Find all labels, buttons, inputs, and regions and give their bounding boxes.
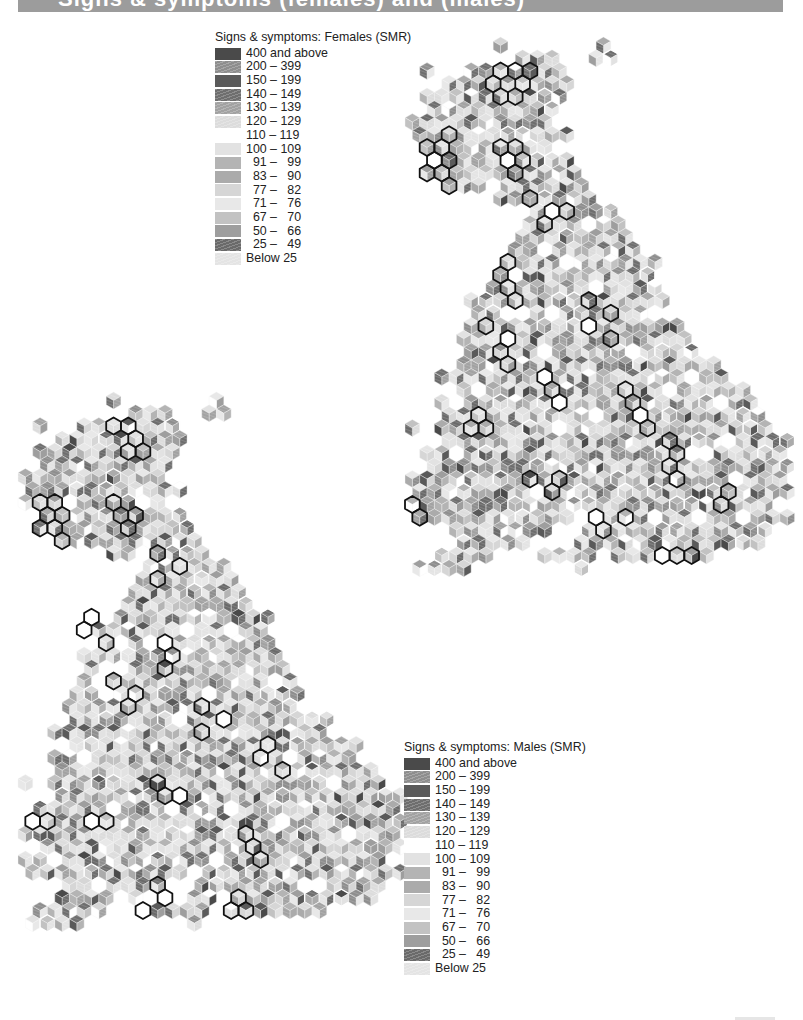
legend-swatch	[215, 239, 241, 251]
legend-label: 71 – 76	[246, 197, 301, 211]
legend-swatch	[215, 225, 241, 237]
legend-swatch	[404, 840, 430, 852]
legend-label: Below 25	[246, 252, 297, 266]
legend-label: 400 and above	[246, 47, 328, 61]
legend-swatch	[404, 867, 430, 879]
legend-swatch	[404, 963, 430, 975]
legend-item: 130 – 139	[215, 101, 411, 115]
legend-label: 120 – 129	[435, 825, 490, 839]
hex-cell	[780, 509, 795, 526]
legend-swatch	[215, 198, 241, 210]
legend-item: 150 – 199	[404, 784, 586, 798]
legend-swatch	[404, 881, 430, 893]
hex-cell	[18, 775, 33, 792]
legend-label: 50 – 66	[435, 935, 490, 949]
hex-cell	[33, 418, 48, 435]
legend-swatch	[404, 908, 430, 920]
legend-swatch	[404, 771, 430, 783]
legend-item: 400 and above	[404, 757, 586, 771]
legend-males: Signs & symptoms: Males (SMR) 400 and ab…	[404, 741, 586, 976]
hex-cell	[434, 369, 449, 386]
legend-title: Signs & symptoms: Males (SMR)	[404, 741, 586, 755]
hex-cell	[334, 889, 349, 906]
legend-items: 400 and above200 – 399150 – 199140 – 149…	[404, 757, 586, 976]
legend-label: 50 – 66	[246, 225, 301, 239]
legend-label: 120 – 129	[246, 115, 301, 129]
legend-item: 25 – 49	[215, 238, 411, 252]
legend-item: 130 – 139	[404, 811, 586, 825]
legend-label: 67 – 70	[435, 921, 490, 935]
legend-swatch	[404, 949, 430, 961]
legend-swatch	[215, 89, 241, 101]
legend-item: 100 – 109	[404, 853, 586, 867]
legend-item: 67 – 70	[215, 211, 411, 225]
legend-item: 91 – 99	[404, 866, 586, 880]
legend-swatch	[215, 61, 241, 73]
legend-swatch	[215, 171, 241, 183]
legend-swatch	[404, 758, 430, 770]
hex-cell	[493, 37, 508, 54]
legend-label: Below 25	[435, 962, 486, 976]
legend-label: 110 – 119	[246, 129, 299, 143]
hex-cell	[603, 50, 618, 67]
legend-item: 110 – 119	[404, 839, 586, 853]
legend-swatch	[215, 48, 241, 60]
legend-swatch	[404, 812, 430, 824]
legend-item: Below 25	[215, 252, 411, 266]
map-males	[18, 392, 408, 932]
legend-item: 100 – 109	[215, 143, 411, 157]
legend-item: 120 – 129	[404, 825, 586, 839]
legend-item: 77 – 82	[404, 894, 586, 908]
legend-item: 71 – 76	[404, 907, 586, 921]
legend-item: 25 – 49	[404, 948, 586, 962]
legend-label: 100 – 109	[246, 143, 301, 157]
hex-cell	[574, 560, 589, 577]
legend-females: Signs & symptoms: Females (SMR) 400 and …	[215, 31, 411, 266]
legend-swatch	[215, 102, 241, 114]
legend-item: 200 – 399	[404, 770, 586, 784]
legend-title: Signs & symptoms: Females (SMR)	[215, 31, 411, 45]
legend-label: 110 – 119	[435, 839, 488, 853]
legend-label: 25 – 49	[435, 948, 490, 962]
legend-item: Below 25	[404, 962, 586, 976]
legend-label: 71 – 76	[435, 907, 490, 921]
legend-swatch	[215, 212, 241, 224]
legend-label: 83 – 90	[435, 880, 490, 894]
hex-cell	[537, 547, 552, 564]
legend-item: 77 – 82	[215, 184, 411, 198]
legend-item: 50 – 66	[404, 935, 586, 949]
legend-swatch	[215, 253, 241, 265]
legend-swatch	[404, 785, 430, 797]
hex-cell	[736, 534, 751, 551]
legend-swatch	[404, 799, 430, 811]
legend-item: 150 – 199	[215, 74, 411, 88]
hex-cell	[692, 432, 707, 449]
legend-label: 91 – 99	[435, 866, 490, 880]
hex-cell	[47, 724, 62, 741]
legend-label: 91 – 99	[246, 156, 301, 170]
legend-swatch	[404, 853, 430, 865]
legend-swatch	[215, 157, 241, 169]
legend-item: 67 – 70	[404, 921, 586, 935]
legend-item: 200 – 399	[215, 60, 411, 74]
hex-cell	[412, 560, 427, 577]
legend-item: 71 – 76	[215, 197, 411, 211]
map-females	[405, 37, 795, 577]
legend-label: 83 – 90	[246, 170, 301, 184]
legend-item: 120 – 129	[215, 115, 411, 129]
legend-item: 110 – 119	[215, 129, 411, 143]
hex-cell	[172, 481, 187, 498]
legend-swatch	[215, 130, 241, 142]
legend-item: 140 – 149	[215, 88, 411, 102]
legend-label: 140 – 149	[435, 798, 490, 812]
hex-cell	[559, 126, 574, 143]
hex-cell	[106, 392, 121, 409]
hex-cell	[427, 560, 442, 577]
legend-label: 130 – 139	[246, 101, 301, 115]
legend-swatch	[215, 116, 241, 128]
legend-swatch	[404, 922, 430, 934]
legend-label: 77 – 82	[246, 184, 301, 198]
legend-swatch	[404, 935, 430, 947]
legend-label: 130 – 139	[435, 811, 490, 825]
legend-label: 100 – 109	[435, 853, 490, 867]
